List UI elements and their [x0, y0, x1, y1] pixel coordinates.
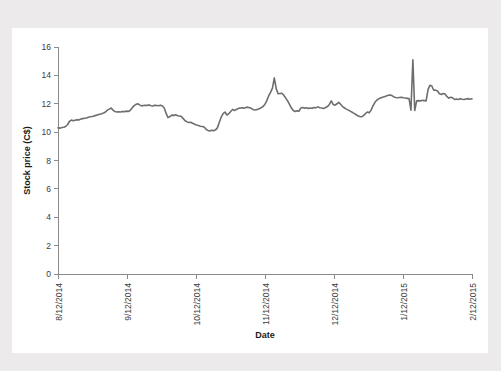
x-tick-label: 9/12/2014	[123, 283, 133, 321]
x-tick-label: 8/12/2014	[54, 283, 64, 321]
x-tick-label: 2/12/2015	[468, 283, 478, 321]
y-axis-title: Stock price (C$)	[22, 126, 32, 195]
x-tick-label: 12/12/2014	[330, 283, 340, 326]
y-tick-label: 0	[46, 269, 51, 279]
stock-price-line-chart: 0246810121416 8/12/20149/12/201410/12/20…	[12, 28, 488, 353]
series-group	[58, 60, 472, 131]
y-tick-label: 16	[42, 42, 52, 52]
y-tick-label: 8	[46, 156, 51, 166]
x-tick-label: 10/12/2014	[192, 283, 202, 326]
y-tick-label: 6	[46, 184, 51, 194]
y-tick-label: 12	[42, 99, 52, 109]
x-axis-group: 8/12/20149/12/201410/12/201411/12/201412…	[54, 274, 478, 326]
y-axis-group: 0246810121416	[42, 42, 58, 279]
y-tick-label: 4	[46, 212, 51, 222]
chart-svg: 0246810121416 8/12/20149/12/201410/12/20…	[12, 28, 488, 353]
y-tick-label: 14	[42, 70, 52, 80]
x-axis-title: Date	[255, 330, 275, 340]
figure-card: 0246810121416 8/12/20149/12/201410/12/20…	[12, 28, 488, 353]
y-tick-label: 2	[46, 241, 51, 251]
y-tick-label: 10	[42, 127, 52, 137]
stock-price-line	[58, 60, 472, 131]
x-tick-label: 11/12/2014	[261, 283, 271, 325]
x-tick-label: 1/12/2015	[399, 283, 409, 321]
